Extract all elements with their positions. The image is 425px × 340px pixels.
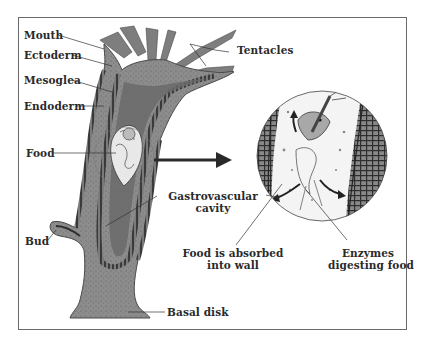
label-absorbed-line1: Food is absorbed <box>178 247 288 259</box>
label-mouth: Mouth <box>24 29 63 41</box>
label-ectoderm: Ectoderm <box>24 49 82 61</box>
label-enzymes-line1: Enzymes <box>328 247 408 259</box>
label-endoderm: Endoderm <box>24 100 85 112</box>
label-enzymes-line2: digesting food <box>328 259 408 271</box>
label-gastrovascular-line2: cavity <box>158 202 268 214</box>
label-mesoglea: Mesoglea <box>24 74 81 86</box>
label-food-absorbed: Food is absorbed into wall <box>178 247 288 271</box>
label-basal-disk: Basal disk <box>167 306 229 318</box>
label-absorbed-line2: into wall <box>178 259 288 271</box>
magnify-arrow <box>154 152 232 168</box>
label-gastrovascular-line1: Gastrovascular <box>158 190 268 202</box>
label-enzymes: Enzymes digesting food <box>328 247 408 271</box>
label-food: Food <box>26 147 55 159</box>
label-bud: Bud <box>25 235 49 247</box>
label-tentacles: Tentacles <box>237 44 293 56</box>
label-gastrovascular-cavity: Gastrovascular cavity <box>158 190 268 214</box>
hydra-diagram: Mouth Ectoderm Mesoglea Endoderm Food Bu… <box>0 0 425 340</box>
inset-magnified-view <box>250 90 394 222</box>
